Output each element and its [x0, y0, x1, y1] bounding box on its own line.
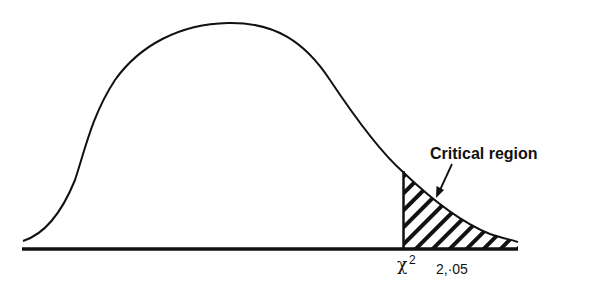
annotation-arrow-head — [436, 186, 444, 198]
chi-square-diagram: Critical region χ 2 2,·05 — [0, 0, 596, 298]
critical-value-superscript: 2 — [409, 253, 416, 267]
critical-region-label: Critical region — [430, 145, 538, 162]
critical-value-symbol: χ — [397, 254, 407, 274]
annotation-arrow-shaft — [440, 164, 452, 190]
critical-value-subscript: 2,·05 — [436, 261, 468, 277]
